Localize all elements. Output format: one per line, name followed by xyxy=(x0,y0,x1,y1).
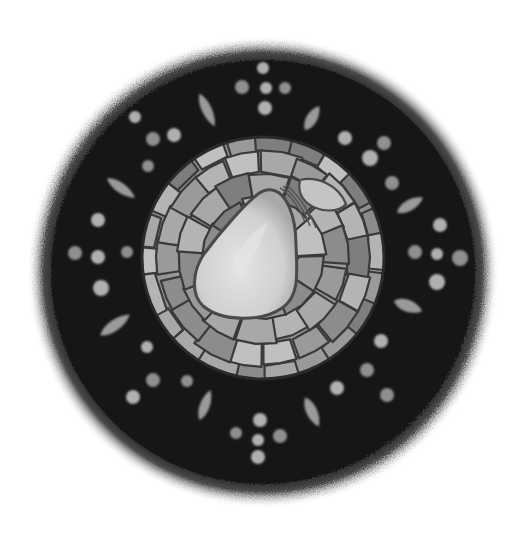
ornament-dot xyxy=(253,413,267,427)
mosaic-plate-illustration xyxy=(0,0,526,537)
ornament-dot xyxy=(167,128,181,142)
ornament-dot xyxy=(330,381,344,395)
ornament-dot xyxy=(408,245,422,259)
ornament-dot xyxy=(68,246,82,260)
ornament-dot xyxy=(338,131,352,145)
ornament-dot xyxy=(146,132,160,146)
ornament-dot xyxy=(385,176,399,190)
ornament-dot xyxy=(257,62,269,74)
ornament-dot xyxy=(258,101,272,115)
ornament-dot xyxy=(429,274,445,290)
ornament-dot xyxy=(235,80,249,94)
ornament-dot xyxy=(377,136,391,150)
ornament-dot xyxy=(362,150,378,166)
ornament-dot xyxy=(129,111,141,123)
ornament-dot xyxy=(146,373,160,387)
ornament-dot xyxy=(360,363,374,377)
ornament-dot xyxy=(126,390,140,404)
ornament-dot xyxy=(273,429,287,443)
ornament-dot xyxy=(142,160,154,172)
ornament-dot xyxy=(91,250,105,264)
ornament-dot xyxy=(91,213,105,227)
ornament-dot xyxy=(230,427,242,439)
ornament-dot xyxy=(141,341,153,353)
ornament-dot xyxy=(380,388,394,402)
plate-artwork xyxy=(0,0,526,537)
mosaic-tile xyxy=(347,235,370,279)
ornament-dot xyxy=(431,248,443,260)
ornament-dot xyxy=(279,82,291,94)
ornament-dot xyxy=(251,450,265,464)
ornament-dot xyxy=(93,280,109,296)
ornament-dot xyxy=(260,82,272,94)
ornament-dot xyxy=(374,334,388,348)
ornament-dot xyxy=(433,218,447,232)
ornament-dot xyxy=(181,375,193,387)
ornament-dot xyxy=(252,434,264,446)
ornament-dot xyxy=(452,250,468,266)
ornament-dot xyxy=(121,246,133,258)
